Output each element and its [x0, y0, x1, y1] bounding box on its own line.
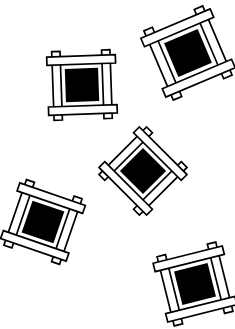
- motif-bottom-left: Bottom left lattice square: [0, 178, 87, 266]
- motif-top-right: Top right lattice square: [139, 4, 235, 103]
- motif-core-square: [174, 263, 216, 305]
- motif-center: Center diamond lattice square: [95, 123, 190, 218]
- bar-horizontal-bottom: [48, 105, 117, 116]
- motif-core-square: [22, 201, 65, 244]
- motif-core-square: [65, 68, 99, 102]
- motif-top-left: Top left lattice square: [47, 50, 118, 121]
- artwork-canvas: Scattered Lattice Square Motifs Five dec…: [0, 0, 235, 329]
- artwork-svg: Top left lattice squareTop right lattice…: [0, 0, 235, 329]
- bar-horizontal-top: [47, 55, 116, 66]
- motif-bottom-right: Bottom right lattice square: [152, 241, 235, 327]
